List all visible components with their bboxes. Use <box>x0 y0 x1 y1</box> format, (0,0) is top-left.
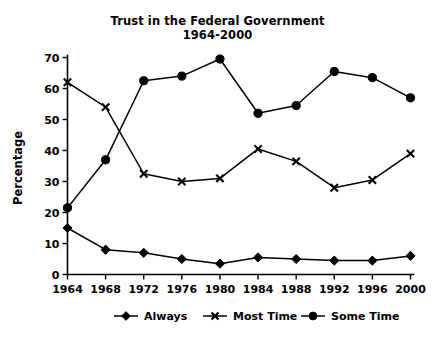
data-point-diamond <box>368 256 377 265</box>
x-axis: 1964196819721976198019841988199219962000 <box>52 275 426 296</box>
y-tick-label: 60 <box>44 83 60 96</box>
x-tick-label: 1988 <box>281 283 312 296</box>
data-point-x <box>254 145 261 152</box>
data-point-circle <box>330 67 338 75</box>
trust-in-government-line-chart: Trust in the Federal Government 1964-200… <box>0 0 435 337</box>
series-most-time <box>64 79 414 192</box>
x-tick-label: 1964 <box>52 283 83 296</box>
data-point-diamond <box>139 248 148 257</box>
data-point-diamond <box>406 251 415 260</box>
x-tick-label: 1992 <box>319 283 350 296</box>
x-tick-label: 1968 <box>90 283 121 296</box>
chart-legend: AlwaysMost TimeSome Time <box>114 310 399 323</box>
series-layer <box>63 55 415 268</box>
y-tick-label: 40 <box>44 145 60 158</box>
data-point-x <box>407 150 414 157</box>
data-point-circle <box>102 156 110 164</box>
legend-label: Always <box>144 310 188 323</box>
data-point-diamond <box>101 245 110 254</box>
data-point-diamond <box>253 253 262 262</box>
data-point-circle <box>368 74 376 82</box>
y-axis-title: Percentage <box>11 131 25 205</box>
data-point-circle <box>254 109 262 117</box>
data-point-circle <box>140 77 148 85</box>
legend-item-always[interactable]: Always <box>114 310 188 323</box>
data-point-diamond <box>63 223 72 232</box>
data-point-circle <box>406 94 414 102</box>
x-tick-label: 1976 <box>167 283 198 296</box>
data-point-circle <box>216 55 224 63</box>
data-point-diamond <box>122 312 131 321</box>
x-tick-label: 1984 <box>243 283 274 296</box>
data-point-diamond <box>215 259 224 268</box>
data-point-circle <box>292 101 300 109</box>
data-point-diamond <box>177 254 186 263</box>
data-point-circle <box>178 72 186 80</box>
x-tick-label: 1996 <box>357 283 388 296</box>
data-point-diamond <box>292 254 301 263</box>
data-point-diamond <box>330 256 339 265</box>
y-tick-label: 50 <box>44 114 60 127</box>
legend-label: Some Time <box>331 310 399 323</box>
plot-area: 010203040506070 196419681972197619801984… <box>0 0 435 337</box>
x-tick-label: 1972 <box>128 283 159 296</box>
y-tick-label: 30 <box>44 176 60 189</box>
series-always <box>63 223 415 268</box>
y-tick-label: 0 <box>52 269 60 282</box>
x-tick-label: 2000 <box>395 283 426 296</box>
legend-label: Most Time <box>233 310 297 323</box>
y-tick-label: 70 <box>44 52 60 65</box>
legend-item-some-time[interactable]: Some Time <box>301 310 399 323</box>
data-point-x <box>102 103 109 110</box>
x-tick-label: 1980 <box>205 283 236 296</box>
data-point-x <box>292 158 299 165</box>
data-point-circle <box>63 204 71 212</box>
y-tick-label: 20 <box>44 207 60 220</box>
legend-item-most-time[interactable]: Most Time <box>203 310 297 323</box>
series-some-time <box>63 55 414 212</box>
y-tick-label: 10 <box>44 238 60 251</box>
data-point-circle <box>309 312 317 320</box>
